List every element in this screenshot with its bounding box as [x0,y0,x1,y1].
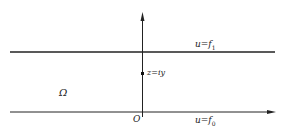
bottom-line-label: u=f0 [195,116,216,127]
strip-diagram [0,0,283,134]
x-axis-arrow-icon [267,110,276,114]
point-label: z=iy [147,69,165,77]
top-line-label: u=f1 [195,40,216,51]
region-label: Ω [59,88,67,98]
point-marker [141,72,144,75]
y-axis-arrow-icon [141,12,145,21]
origin-label: O [133,115,140,124]
